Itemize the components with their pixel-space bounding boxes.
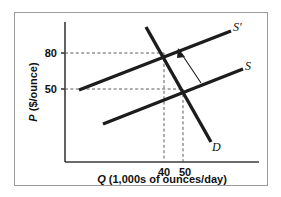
x-axis-title-units: (1,000s of ounces/day) — [106, 173, 227, 185]
y-tick-label-50: 50 — [45, 83, 57, 95]
y-tick-label-80: 80 — [45, 47, 57, 59]
figure-frame: S' S D 80 50 40 50 P ($/ounce) Q (1,000s… — [14, 12, 268, 186]
supply-shift-arrow-shaft — [181, 53, 201, 83]
y-axis-title-units: ($/ounce) — [27, 62, 39, 114]
x-axis-title: Q (1,000s of ounces/day) — [97, 173, 227, 185]
supply-original-label: S — [245, 59, 251, 73]
supply-demand-chart: S' S D 80 50 40 50 P ($/ounce) Q (1,000s… — [15, 13, 267, 185]
demand-label: D — [211, 140, 221, 154]
y-axis-title: P ($/ounce) — [27, 62, 39, 122]
supply-shifted-label: S' — [233, 20, 242, 34]
